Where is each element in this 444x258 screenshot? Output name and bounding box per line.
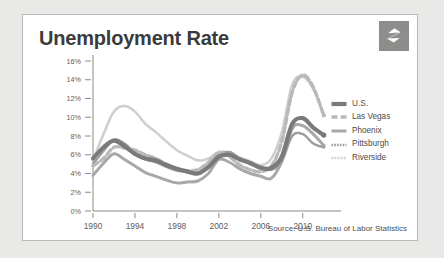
series-endpoint xyxy=(322,146,325,149)
y-axis-ticks xyxy=(85,61,91,211)
legend-label: U.S. xyxy=(352,100,368,108)
svg-text:8%: 8% xyxy=(71,132,82,141)
svg-text:1990: 1990 xyxy=(84,221,103,231)
legend-label: Riverside xyxy=(352,154,386,162)
series-endpoint xyxy=(322,113,326,117)
dashed-swatch xyxy=(331,112,347,122)
svg-text:1994: 1994 xyxy=(126,221,145,231)
x-axis-ticks xyxy=(93,213,303,218)
source-note: Source: U.S. Bureau of Labor Statistics xyxy=(268,224,407,233)
wavy-swatch xyxy=(331,140,347,150)
chart-legend: U.S.Las VegasPhoenixPittsburghRiverside xyxy=(331,97,415,165)
legend-item-pittsburgh[interactable]: Pittsburgh xyxy=(331,138,415,152)
svg-text:0%: 0% xyxy=(71,207,82,216)
svg-text:2%: 2% xyxy=(71,188,82,197)
svg-text:14%: 14% xyxy=(67,75,82,84)
chart-card: Unemployment Rate 16%14%12%10%8%6%4%2%0%… xyxy=(22,14,418,241)
series-line-riverside xyxy=(93,76,324,165)
svg-text:6%: 6% xyxy=(71,150,82,159)
legend-label: Las Vegas xyxy=(352,113,390,121)
series-endpoint xyxy=(321,132,326,137)
legend-item-las-vegas[interactable]: Las Vegas xyxy=(331,111,415,125)
legend-item-u-s[interactable]: U.S. xyxy=(331,97,415,111)
legend-item-phoenix[interactable]: Phoenix xyxy=(331,124,415,138)
solid-swatch xyxy=(331,126,347,136)
solid-thick-swatch xyxy=(331,99,347,109)
svg-text:2002: 2002 xyxy=(210,221,229,231)
legend-label: Pittsburgh xyxy=(352,140,389,148)
svg-text:10%: 10% xyxy=(67,113,82,122)
series-layer xyxy=(93,75,326,183)
legend-item-riverside[interactable]: Riverside xyxy=(331,151,415,165)
svg-text:12%: 12% xyxy=(67,94,82,103)
svg-text:1998: 1998 xyxy=(168,221,187,231)
y-axis-labels: 16%14%12%10%8%6%4%2%0% xyxy=(67,57,82,216)
svg-text:4%: 4% xyxy=(71,169,82,178)
wavy-light-swatch xyxy=(331,153,347,163)
legend-label: Phoenix xyxy=(352,127,382,135)
svg-text:16%: 16% xyxy=(67,57,82,66)
